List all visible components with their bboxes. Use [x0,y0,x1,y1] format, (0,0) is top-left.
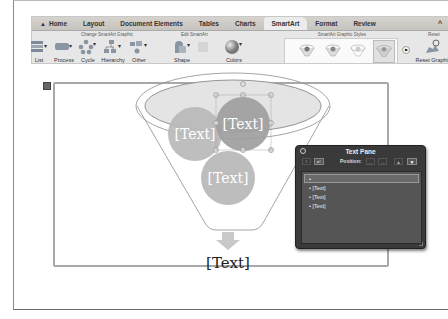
circle-bottom-text[interactable]: [Text] [208,170,249,186]
close-icon[interactable] [300,148,306,154]
position-label: Position: [340,158,361,164]
text-pane-title: Text Pane [296,146,425,157]
move-down-button[interactable]: ▼ [407,158,417,165]
move-right-button[interactable]: → [378,158,387,165]
resize-handle[interactable] [419,242,423,246]
circle-top-left-text[interactable]: [Text] [175,126,216,142]
move-up-button[interactable]: ▲ [394,158,403,165]
text-pane-toolbar: ≡ ●≡ Position: ← → ▲ ▼ [296,157,425,167]
bullet-demote-button[interactable]: ≡ [302,158,311,165]
text-pane-item[interactable]: • [Text] [302,184,421,193]
down-arrow-icon [216,232,240,250]
result-text[interactable]: [Text] [206,254,250,272]
circle-top-right-text[interactable]: [Text] [223,116,264,132]
bullet-promote-button[interactable]: ●≡ [314,158,324,165]
move-left-button[interactable]: ← [366,158,375,165]
text-pane-item[interactable]: • [Text] [302,193,421,202]
text-pane-item[interactable]: • [Text] [302,202,421,211]
text-pane-item-selected[interactable]: • [304,174,419,183]
text-pane: Text Pane ≡ ●≡ Position: ← → ▲ ▼ • • [Te… [295,145,426,249]
text-pane-list[interactable]: • • [Text] • [Text] • [Text] [301,171,422,244]
